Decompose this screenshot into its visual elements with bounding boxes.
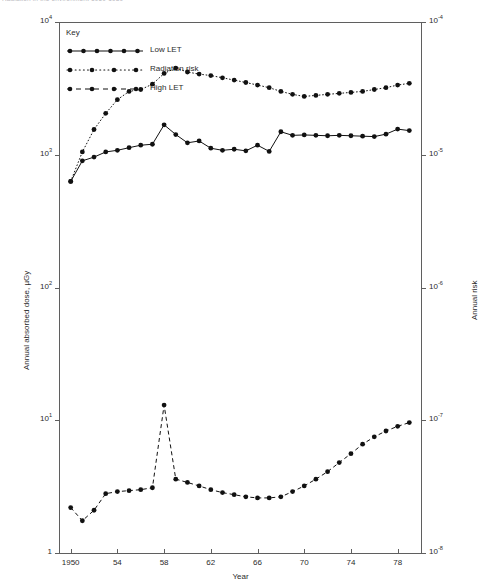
right-axis-tick-label: 10-8 [429, 548, 443, 556]
data-point [68, 179, 73, 184]
data-point [314, 133, 319, 138]
data-point [255, 143, 260, 148]
data-point [395, 83, 400, 88]
legend-line-sample-dotted [66, 62, 144, 74]
data-point [407, 420, 412, 425]
data-point [232, 492, 237, 497]
data-point [337, 133, 342, 138]
data-point [255, 83, 260, 88]
left-axis-tick-mark [55, 288, 60, 289]
data-point [302, 133, 307, 138]
x-axis-tick-mark [398, 549, 399, 554]
x-axis-tick-mark [304, 549, 305, 554]
data-point [92, 508, 97, 513]
left-axis-tick-mark [55, 420, 60, 421]
data-point [162, 403, 167, 408]
y-axis-title-left: Annual absorbed dose, µGy [22, 271, 31, 370]
left-axis-tick-mark [55, 553, 60, 554]
data-point [80, 158, 85, 163]
data-point [314, 93, 319, 98]
right-axis-tick-label: 10-4 [429, 17, 443, 25]
data-point [208, 487, 213, 492]
left-axis-tick-mark [55, 22, 60, 23]
data-point [92, 127, 97, 132]
legend-entry-label: High LET [150, 83, 183, 92]
data-point [173, 477, 178, 482]
right-axis-tick-label: 10-6 [429, 283, 443, 291]
axis-top-rule [59, 22, 421, 23]
legend-entry-low-let: Low LET [66, 43, 238, 55]
data-point [243, 80, 248, 85]
data-point [395, 424, 400, 429]
y-axis-title-right: Annual risk [470, 280, 479, 320]
data-point [103, 111, 108, 116]
data-point [407, 128, 412, 133]
left-axis-tick-label: 1 [20, 548, 52, 556]
legend-entry-label: Radiation risk [150, 64, 198, 73]
data-point [384, 429, 389, 434]
data-point [243, 494, 248, 499]
left-axis-tick-label: 104 [20, 17, 52, 25]
data-point [407, 81, 412, 86]
x-axis-tick-mark [117, 549, 118, 554]
data-point [267, 149, 272, 154]
data-point [360, 442, 365, 447]
data-point [92, 155, 97, 160]
x-axis-tick-mark [164, 549, 165, 554]
legend-entry-high-let: High LET [66, 81, 238, 93]
data-point [337, 91, 342, 96]
right-axis-tick-mark [421, 420, 426, 421]
data-point [302, 484, 307, 489]
data-point [232, 147, 237, 152]
data-point [337, 460, 342, 465]
data-point [302, 94, 307, 99]
data-point [185, 480, 190, 485]
data-point [267, 85, 272, 90]
data-point [173, 132, 178, 137]
data-point [325, 92, 330, 97]
x-axis-title: Year [0, 572, 481, 581]
left-axis-tick-label: 101 [20, 415, 52, 423]
data-point [197, 484, 202, 489]
data-point [278, 89, 283, 94]
data-point [150, 485, 155, 490]
axis-bottom-rule [59, 553, 421, 554]
data-point [267, 496, 272, 501]
x-axis-tick-mark [258, 549, 259, 554]
x-axis-tick-label: 58 [144, 559, 184, 567]
data-point [208, 146, 213, 151]
data-point [349, 90, 354, 95]
data-point [243, 148, 248, 153]
data-point [360, 89, 365, 94]
data-point [138, 143, 143, 148]
data-point [197, 139, 202, 144]
x-axis-tick-mark [351, 549, 352, 554]
data-point [80, 150, 85, 155]
data-point [360, 134, 365, 139]
x-axis-tick-label: 70 [284, 559, 324, 567]
data-point [372, 87, 377, 92]
series-high-let [68, 403, 411, 523]
data-point [395, 127, 400, 132]
x-axis-tick-mark [211, 549, 212, 554]
x-axis-tick-label: 54 [97, 559, 137, 567]
data-point [220, 148, 225, 153]
x-axis-tick-label: 66 [238, 559, 278, 567]
legend: Key Low LETRadiation riskHigh LET [64, 27, 239, 99]
right-axis-tick-mark [421, 553, 426, 554]
right-axis-tick-mark [421, 155, 426, 156]
right-axis-tick-label: 10-7 [429, 415, 443, 423]
data-point [150, 142, 155, 147]
data-point [325, 133, 330, 138]
data-point [349, 451, 354, 456]
legend-title: Key [66, 28, 80, 37]
legend-entry-radiation-risk: Radiation risk [66, 62, 238, 74]
series-low-let [68, 122, 411, 183]
x-axis-tick-label: 74 [331, 559, 371, 567]
data-point [220, 490, 225, 495]
left-axis-tick-mark [55, 155, 60, 156]
data-point [314, 477, 319, 482]
data-point [68, 505, 73, 510]
data-point [127, 488, 132, 493]
right-axis-tick-mark [421, 22, 426, 23]
